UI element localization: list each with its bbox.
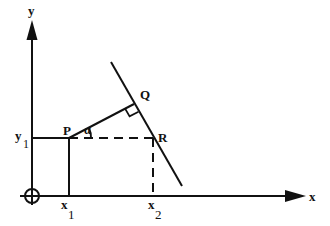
x2-label-sub: 2 <box>155 207 162 222</box>
geometry-diagram: y x P Q R α y 1 x 1 x 2 <box>0 0 330 226</box>
x-axis-arrow-icon <box>285 190 306 202</box>
point-p-label: P <box>63 123 71 138</box>
point-q-label: Q <box>140 87 150 102</box>
y-axis-arrow-icon <box>27 20 38 40</box>
x1-label-base: x <box>61 197 68 212</box>
y-axis-label: y <box>28 3 35 18</box>
y1-label-base: y <box>15 128 22 143</box>
x1-label-sub: 1 <box>68 207 75 222</box>
right-angle-marker-icon <box>125 109 138 117</box>
y1-label-sub: 1 <box>23 137 29 151</box>
point-r-label: R <box>158 130 168 145</box>
slanted-line-qr <box>111 62 182 186</box>
x-axis-label: x <box>309 189 316 204</box>
x2-label-base: x <box>148 197 155 212</box>
pq-segment <box>69 104 134 138</box>
angle-alpha-label: α <box>84 123 91 137</box>
